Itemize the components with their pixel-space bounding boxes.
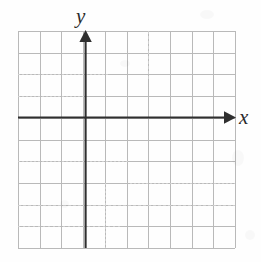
y-axis-label: y xyxy=(76,6,85,27)
grid-lines xyxy=(18,31,236,249)
coordinate-grid-figure: y x xyxy=(0,0,261,262)
coordinate-grid-canvas xyxy=(0,0,261,262)
x-axis-arrowhead-icon xyxy=(224,111,236,123)
y-axis xyxy=(79,30,91,248)
x-axis-label: x xyxy=(239,107,248,128)
